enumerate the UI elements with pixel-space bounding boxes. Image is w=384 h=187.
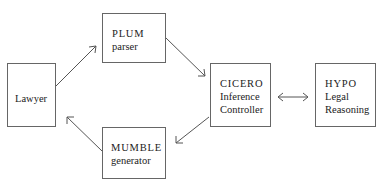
- node-mumble-title: MUMBLE: [111, 141, 162, 154]
- node-plum-title: PLUM: [112, 27, 144, 40]
- node-lawyer-label: Lawyer: [15, 92, 47, 105]
- node-cicero-title: CICERO: [220, 77, 263, 90]
- node-hypo-line2: Legal: [325, 90, 369, 103]
- node-hypo-legal-reasoning: HYPO Legal Reasoning: [315, 63, 376, 127]
- node-plum-subtitle: parser: [112, 40, 144, 53]
- node-cicero-controller: CICERO Inference Controller: [210, 63, 271, 127]
- arrow-lawyer-to-plum: [56, 46, 96, 86]
- arrow-cicero-to-mumble: [176, 117, 209, 143]
- node-cicero-line2: Inference: [220, 90, 263, 103]
- arrow-plum-to-cicero: [166, 38, 205, 76]
- node-cicero-line3: Controller: [220, 103, 263, 116]
- node-mumble-generator: MUMBLE generator: [102, 127, 166, 179]
- node-hypo-title: HYPO: [325, 77, 369, 90]
- node-mumble-subtitle: generator: [111, 154, 162, 167]
- node-plum-parser: PLUM parser: [102, 13, 166, 63]
- node-lawyer: Lawyer: [7, 63, 56, 127]
- arrow-mumble-to-lawyer: [67, 117, 102, 151]
- arrow-cicero-hypo-bidirectional: [278, 93, 308, 101]
- node-hypo-line3: Reasoning: [325, 103, 369, 116]
